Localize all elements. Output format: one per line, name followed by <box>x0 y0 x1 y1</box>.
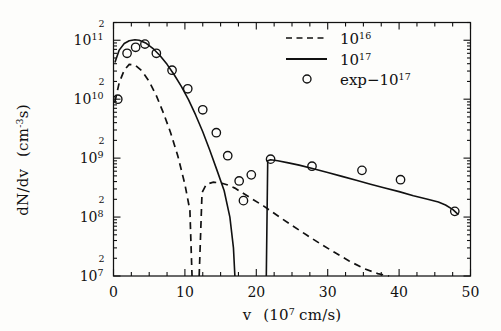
x-axis-title-units: cm/s) <box>299 306 341 324</box>
velocity-distribution-chart: 01020304050 1072108210921010210112 v (10… <box>0 0 501 331</box>
y-minor-decade-label: 2 <box>98 253 104 264</box>
x-axis-title-variable: v <box>242 306 252 324</box>
x-tick-label: 40 <box>390 284 408 300</box>
y-axis-title-units-open: (cm <box>14 128 32 157</box>
legend-label-1e17-base: 10 <box>340 51 359 69</box>
chart-background <box>0 0 501 331</box>
x-tick-label: 50 <box>462 284 480 300</box>
legend-label-1e16-exponent: 16 <box>359 30 371 41</box>
x-tick-label: 10 <box>176 284 194 300</box>
x-tick-label: 30 <box>319 284 337 300</box>
x-tick-label: 20 <box>247 284 265 300</box>
y-minor-decade-label: 2 <box>98 194 104 205</box>
legend-label-1e17-exponent: 17 <box>359 51 371 62</box>
y-axis-title-units-exponent: -3 <box>14 118 25 128</box>
legend-label-1e16-base: 10 <box>340 30 359 48</box>
legend-label-exp-prefix: exp−10 <box>340 71 399 89</box>
legend-label-exp-exponent: 17 <box>399 71 411 82</box>
x-tick-label: 0 <box>109 284 118 300</box>
x-axis-title-exponent: 7 <box>289 306 295 317</box>
x-axis-title-paren: (10 <box>263 306 289 324</box>
y-minor-decade-label: 2 <box>98 76 104 87</box>
y-axis-title-units-tail: s) <box>14 104 32 118</box>
y-minor-decade-label: 2 <box>98 18 104 29</box>
y-minor-decade-label: 2 <box>98 135 104 146</box>
y-axis-title-quantity: dN/dv <box>14 169 32 216</box>
figure-container: 01020304050 1072108210921010210112 v (10… <box>0 0 501 331</box>
